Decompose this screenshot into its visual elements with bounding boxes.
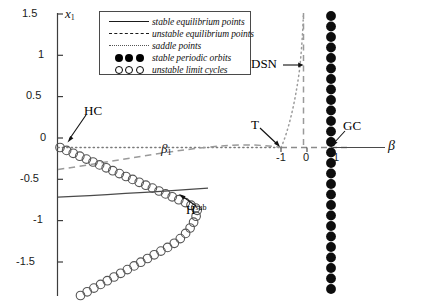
- unstable-limit-cycles-upper-branch: [56, 143, 200, 212]
- solid-line-icon: [106, 16, 152, 27]
- legend-item-unstable-limit-cycles: unstable limit cycles: [106, 64, 245, 76]
- legend-label-stable-equilibrium-points: stable equilibrium points: [152, 17, 245, 27]
- t-leader-arrow: [260, 128, 280, 147]
- y-tick-label-1: 1: [38, 49, 44, 60]
- y-tick-label-0: 0: [40, 132, 46, 143]
- legend-label-stable-periodic-orbits: stable periodic orbits: [152, 53, 231, 63]
- dashed-line-icon: [106, 28, 152, 39]
- y-tick-label--1: -1: [33, 214, 43, 225]
- annotation-hsub-base: H: [186, 202, 195, 217]
- legend-box: stable equilibrium points unstable equil…: [99, 11, 251, 75]
- legend-item-saddle-points: saddle points: [106, 40, 245, 52]
- annotation-gc: GC: [343, 119, 361, 132]
- x-tick-label--1: -1: [276, 152, 286, 163]
- legend-item-unstable-equilibrium-points: unstable equilibrium points: [106, 28, 245, 40]
- legend-label-unstable-limit-cycles: unstable limit cycles: [152, 65, 227, 75]
- y-axis-label-subscript: 1: [71, 13, 75, 22]
- x-tick-label-1: 1: [333, 152, 339, 163]
- unstable-limit-cycles-lower-branch: [76, 206, 201, 300]
- hc-leader-arrow: [68, 115, 87, 143]
- annotation-hsub-superscript: sub: [195, 203, 206, 212]
- dotted-line-icon: [106, 40, 152, 51]
- annotation-hc: HC: [84, 104, 102, 117]
- x-axis-label-beta-1: β1: [161, 142, 171, 157]
- annotation-t: T: [251, 118, 259, 131]
- filled-circles-icon: [106, 52, 152, 63]
- legend-label-unstable-equilibrium-points: unstable equilibrium points: [152, 29, 254, 39]
- y-axis-label: x1: [65, 7, 75, 22]
- y-tick-label--1.5: -1.5: [16, 256, 35, 267]
- y-tick-label--0.5: -0.5: [20, 173, 39, 184]
- legend-item-stable-equilibrium-points: stable equilibrium points: [106, 16, 245, 28]
- x-axis-label-beta: β: [388, 139, 395, 153]
- saddle-points-rising-branch: [281, 16, 303, 148]
- open-circles-icon: [106, 64, 152, 75]
- legend-label-saddle-points: saddle points: [152, 41, 201, 51]
- stable-equilibrium-line: [58, 188, 208, 197]
- bifurcation-diagram-figure: 1.5 1 0.5 0 -0.5 -1 -1.5 x1 -1 0 1 β β1 …: [0, 0, 422, 308]
- annotation-hsub: Hsub: [186, 203, 207, 216]
- y-tick-label-1.5: 1.5: [22, 8, 37, 19]
- annotation-dsn: DSN: [251, 57, 277, 70]
- beta1-subscript: 1: [167, 148, 171, 157]
- y-tick-label-0.5: 0.5: [26, 90, 41, 101]
- legend-item-stable-periodic-orbits: stable periodic orbits: [106, 52, 245, 64]
- x-tick-label-0: 0: [303, 152, 309, 163]
- y-axis-ticks: [58, 14, 64, 262]
